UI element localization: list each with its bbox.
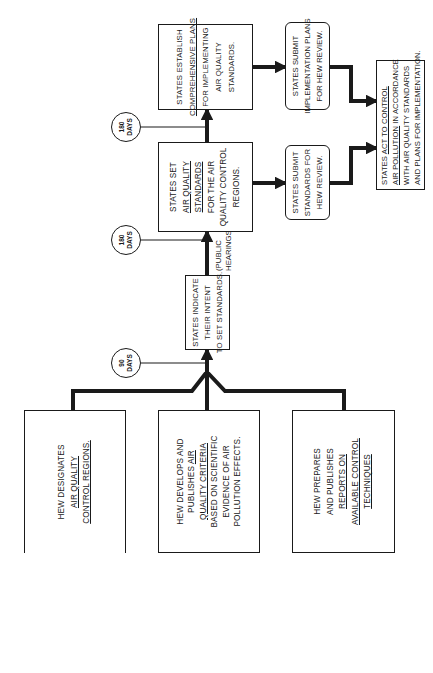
states-set-standards-box: STATES SET AIR QUALITY STANDARDS FOR THE… [158,142,253,232]
box-text-line: FOR THE AIR [206,161,219,213]
box-text-line: STANDARDS FOR [302,149,314,216]
timer-value: 90 [118,359,126,366]
box-text-line: AIR QUALITY [181,161,194,213]
timer-180-days-1: 180 DAYS [111,225,141,255]
box-text-line: REPORTS ON [337,454,350,509]
box-text-line: COMPREHENSIVE PLANS [186,18,199,116]
timer-unit: DAYS [126,231,134,248]
timer-unit: DAYS [126,354,134,371]
hew-criteria-box: HEW DEVELOPS AND PUBLISHES AIR QUALITY C… [158,410,260,553]
box-text-line: THEIR INTENT [202,285,214,340]
box-text-line: STATES ACT TO CONTROL [379,86,390,185]
box-text-line: QUALITY CONTROL [218,148,231,227]
box-text-line: QUALITY CRITERIA [198,443,210,520]
box-text-line: POLLUTION EFFECTS. [232,436,244,526]
box-text-line: IMPLEMENTATION PLANS [302,18,314,113]
note-line: (PUBLIC [214,228,224,271]
note-line: HEARINGS) [224,228,234,271]
box-text-line: AIR QUALITY [69,456,82,508]
text-fragment-underlined: ACT TO CONTROL [380,86,389,154]
box-text-line: AVAILABLE CONTROL [350,438,363,525]
box-text-line: REGIONS. [231,167,244,208]
text-fragment-underlined: AIR POLLUTION [391,126,400,185]
submit-standards-box: STATES SUBMIT STANDARDS FOR HEW REVIEW. [285,145,330,220]
box-text-line: STANDARDS [193,162,206,213]
timer-value: 180 [118,235,126,246]
box-text-line: HEW PREPARES [312,448,325,515]
box-text-line: WITH AIR QUALITY STANDARDS [401,66,412,185]
box-text-line: FOR HEW REVIEW. [314,30,326,101]
text-fragment: IN ACCORDANCE [391,59,400,126]
text-fragment: STATES [380,154,389,185]
box-text-line: TECHNIQUES [362,454,375,509]
box-text-line: PUBLISHES AIR [186,450,198,513]
box-text-line: EVIDENCE OF AIR [221,445,233,517]
states-indicate-box: STATES INDICATE THEIR INTENT TO SET STAN… [185,275,230,350]
submit-implementation-plans-box: STATES SUBMIT IMPLEMENTATION PLANS FOR H… [285,22,330,110]
box-text-line: HEW DESIGNATES [56,445,69,520]
box-text-line: BASED ON SCIENTIFIC [209,436,221,528]
timer-value: 180 [118,122,126,133]
flowchart-canvas: HEW DESIGNATES AIR QUALITY CONTROL REGIO… [0,0,433,673]
hew-reports-box: HEW PREPARES AND PUBLISHES REPORTS ON AV… [292,410,395,553]
public-hearings-note: (PUBLIC HEARINGS) [214,228,234,271]
states-act-to-control-box: STATES ACT TO CONTROL AIR POLLUTION IN A… [376,60,425,190]
box-text-line: AIR QUALITY [212,42,225,92]
timer-180-days-2: 180 DAYS [111,112,141,142]
box-text-line: HEW REVIEW. [314,156,326,210]
box-text-line: FOR IMPLEMENTING [199,27,212,107]
hew-designates-box: HEW DESIGNATES AIR QUALITY CONTROL REGIO… [24,410,126,553]
timer-unit: DAYS [126,118,134,135]
text-fragment: PUBLISHES [187,464,196,513]
box-text-line: STATES ESTABLISH [173,29,186,104]
box-text-line: CONTROL REGIONS. [81,440,94,524]
timer-90-days: 90 DAYS [111,348,141,378]
box-text-line: AND PLANS FOR IMPLEMENTATION. [412,50,423,185]
states-establish-plans-box: STATES ESTABLISH COMPREHENSIVE PLANS FOR… [158,24,253,110]
text-fragment-underlined: AIR [187,450,196,464]
box-text-line: STATES SET [168,162,181,212]
box-text-line: TO SET STANDARDS. [214,272,226,353]
box-text-line: AND PUBLISHES [325,448,338,515]
box-text-line: STANDARDS. [225,42,238,93]
box-text-line: STATES INDICATE [190,278,202,347]
box-text-line: STATES SUBMIT [290,36,302,97]
box-text-line: STATES SUBMIT [290,151,302,213]
box-text-line: AIR POLLUTION IN ACCORDANCE [390,59,401,185]
box-text-line: HEW DEVELOPS AND [175,438,187,524]
